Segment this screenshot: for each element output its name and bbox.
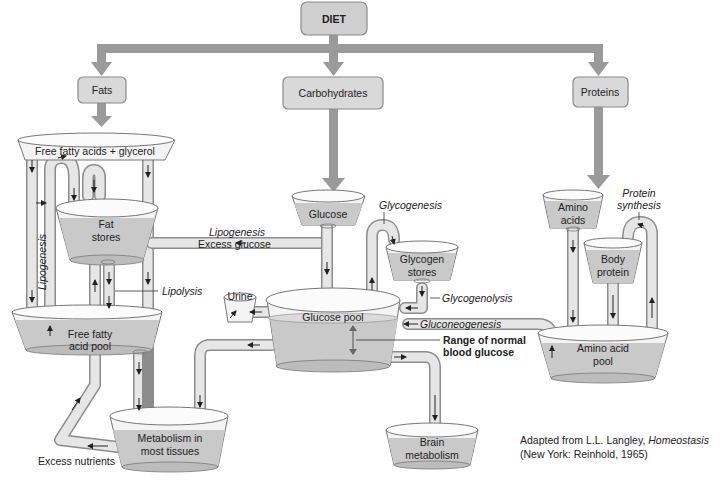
reservoir-ffa-glycerol: Free fatty acids + glycerol [18, 133, 175, 160]
source-fats: Fats [78, 77, 126, 103]
proteins-label: Proteins [581, 86, 620, 98]
metabolism-label-2: most tissues [141, 445, 199, 457]
source-proteins: Proteins [573, 77, 628, 107]
range-label-1: Range of normal [443, 334, 526, 346]
brain-label-1: Brain [420, 436, 445, 448]
reservoir-amino-acids: Amino acids [543, 190, 603, 231]
fat-stores-label-2: stores [92, 231, 121, 243]
lipogenesis-label: Lipogenesis [209, 226, 266, 238]
aa-pool-label-1: Amino acid [577, 342, 629, 354]
aa-pool-label-2: pool [593, 355, 613, 367]
reservoir-brain-metabolism: Brain metabolism [386, 423, 478, 469]
source-carbohydrates: Carbohydrates [283, 77, 383, 109]
body-protein-label-2: protein [597, 266, 629, 278]
excess-nutrients-label: Excess nutrients [38, 455, 115, 467]
glycogenolysis-label: Glycogenolysis [442, 292, 513, 304]
credit-prefix: Adapted from L.L. Langley, [520, 434, 648, 446]
gluconeogenesis-label: Gluconeogenesis [420, 318, 502, 330]
metabolism-label-1: Metabolism in [138, 432, 203, 444]
glucose-pool-label: Glucose pool [302, 311, 363, 323]
amino-acids-label-2: acids [561, 214, 586, 226]
excess-glucose-label: Excess glucose [198, 238, 271, 250]
fats-label: Fats [92, 84, 112, 96]
diet-box: DIET [301, 2, 367, 35]
glycogen-label-2: stores [408, 266, 437, 278]
reservoir-urine: Urine [224, 290, 256, 322]
protein-synthesis-label-1: Protein [622, 187, 655, 199]
nutrient-flow-diagram: DIET Fats Carbohydrates Proteins [0, 0, 723, 492]
reservoir-amino-acid-pool: Amino acid pool [538, 325, 668, 383]
ffa-glycerol-label: Free fatty acids + glycerol [35, 145, 155, 157]
glycogenesis-label: Glycogenesis [379, 199, 443, 211]
body-protein-label-1: Body [601, 253, 626, 265]
amino-acids-label-1: Amino [558, 201, 588, 213]
protein-synthesis-label-2: synthesis [617, 199, 662, 211]
reservoir-fat-stores: Fat stores [56, 199, 158, 265]
reservoir-body-protein: Body protein [584, 238, 642, 283]
reservoir-metabolism-tissues: Metabolism in most tissues [110, 407, 228, 472]
source-credit: Adapted from L.L. Langley, Homeostasis (… [520, 433, 709, 461]
diet-distribution-arrows [91, 34, 610, 192]
reservoir-glucose-pool: Glucose pool [266, 288, 400, 372]
glycogen-label-1: Glycogen [400, 253, 445, 265]
reservoir-glycogen-stores: Glycogen stores [386, 241, 458, 283]
range-label-2: blood glucose [443, 346, 514, 358]
credit-book-title: Homeostasis [648, 434, 709, 446]
ffa-pool-label-1: Free fatty [68, 328, 113, 340]
ffa-pool-label-2: acid pool [69, 340, 111, 352]
fat-stores-label-1: Fat [98, 218, 113, 230]
diet-label: DIET [322, 13, 347, 25]
reservoir-glucose: Glucose [292, 190, 365, 228]
carbohydrates-label: Carbohydrates [299, 87, 368, 99]
lipolysis-label: Lipolysis [162, 285, 203, 297]
urine-label: Urine [227, 290, 252, 302]
lipogenesis-vertical-label: Lipogenesis [36, 233, 48, 290]
brain-label-2: metabolism [405, 449, 459, 461]
reservoir-ffa-pool: Free fatty acid pool [12, 305, 162, 355]
glucose-label: Glucose [309, 208, 348, 220]
credit-publisher: (New York: Reinhold, 1965) [520, 447, 709, 461]
